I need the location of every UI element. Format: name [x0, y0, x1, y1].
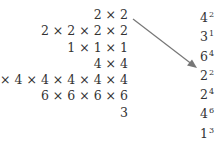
matching-arrow-icon [0, 0, 222, 141]
